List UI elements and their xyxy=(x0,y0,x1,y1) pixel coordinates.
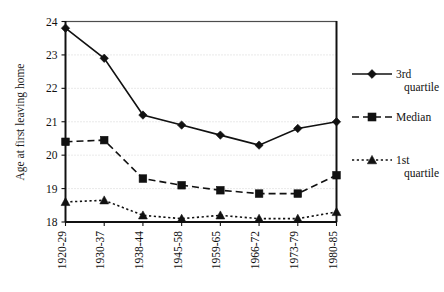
x-tick-label: 1966-72 xyxy=(249,231,261,270)
y-tick-label: 24 xyxy=(46,16,58,28)
legend-label: 1st xyxy=(396,154,410,166)
data-point-marker xyxy=(100,136,108,144)
legend-entry-2: Median xyxy=(352,111,431,123)
data-point-marker xyxy=(177,121,185,129)
x-axis-ticks: 1920-291930-371938-441945-581959-651966-… xyxy=(56,222,339,269)
data-point-marker xyxy=(368,113,376,121)
y-tick-label: 18 xyxy=(46,216,58,228)
series-1 xyxy=(61,24,340,149)
data-point-marker xyxy=(62,138,70,146)
series-line xyxy=(66,140,337,193)
legend-label: Median xyxy=(396,111,431,123)
series-3 xyxy=(61,196,341,222)
legend-entry-3: 1stquartile xyxy=(352,154,439,180)
data-point-marker xyxy=(332,208,341,216)
chart-figure: 18192021222324 1920-291930-371938-441945… xyxy=(0,0,444,292)
data-point-marker xyxy=(139,175,147,183)
data-point-marker xyxy=(61,198,70,206)
data-point-marker xyxy=(368,70,377,79)
legend-label-line2: quartile xyxy=(404,81,439,94)
x-tick-label: 1959-65 xyxy=(210,231,222,270)
x-tick-label: 1980-85 xyxy=(327,231,339,270)
legend-label-line2: quartile xyxy=(404,167,439,180)
data-point-marker xyxy=(255,141,263,149)
gridlines xyxy=(66,55,337,189)
y-axis-ticks: 18192021222324 xyxy=(46,16,66,229)
y-tick-label: 23 xyxy=(46,49,58,61)
x-tick-label: 1930-37 xyxy=(94,231,106,270)
data-point-marker xyxy=(294,124,302,132)
x-tick-label: 1973-79 xyxy=(288,231,300,270)
data-point-marker xyxy=(217,186,225,194)
data-point-marker xyxy=(367,155,376,163)
legend-label: 3rd xyxy=(396,68,412,80)
y-tick-label: 19 xyxy=(46,183,58,195)
y-tick-label: 22 xyxy=(46,82,58,94)
data-point-marker xyxy=(216,131,224,139)
y-tick-label: 20 xyxy=(46,149,58,161)
data-point-marker xyxy=(294,190,302,198)
x-tick-label: 1920-29 xyxy=(56,231,68,270)
x-tick-label: 1945-58 xyxy=(172,231,184,270)
data-point-marker xyxy=(255,190,263,198)
data-point-marker xyxy=(178,181,186,189)
x-tick-label: 1938-44 xyxy=(133,231,145,270)
data-point-marker xyxy=(332,118,340,126)
series-layer xyxy=(61,24,341,222)
chart-legend: 3rdquartileMedian1stquartile xyxy=(352,68,439,180)
legend-entry-1: 3rdquartile xyxy=(352,68,439,94)
line-chart: 18192021222324 1920-291930-371938-441945… xyxy=(0,0,444,292)
data-point-marker xyxy=(333,171,341,179)
y-axis-title: Age at first leaving home xyxy=(14,64,27,181)
y-tick-label: 21 xyxy=(46,116,58,128)
